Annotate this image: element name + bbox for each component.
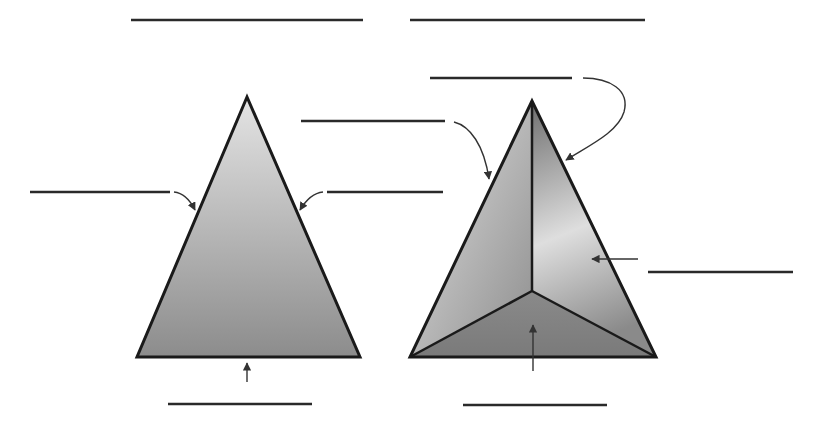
- pyramid-figure: [410, 101, 656, 357]
- diagram-svg: [0, 0, 825, 423]
- pyramid-left-face-arrow-icon: [454, 122, 489, 179]
- triangle-shape: [137, 97, 360, 357]
- pyramid-apex-edge-arrow-icon: [566, 78, 625, 160]
- diagram-canvas: [0, 0, 825, 423]
- triangle-figure: [137, 97, 360, 357]
- triangle-left-side-arrow-icon: [174, 192, 195, 210]
- triangle-right-side-arrow-icon: [300, 192, 323, 210]
